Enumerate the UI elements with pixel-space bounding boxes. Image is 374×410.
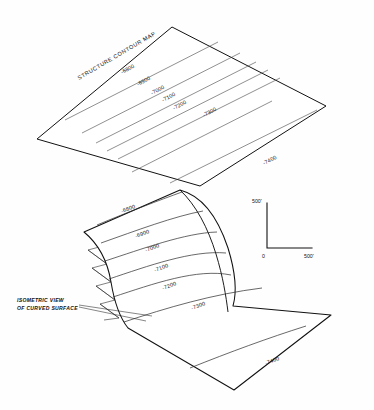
scale-origin-label: 0 (262, 253, 265, 259)
scale-horizontal-label: 500' (304, 253, 314, 259)
structure-contour-map-panel: STRUCTURE CONTOUR MAP -6800 -6900 -7000 … (37, 27, 326, 186)
curved-surface-body (84, 190, 331, 390)
iso-caption-line-2: OF CURVED SURFACE (17, 305, 78, 311)
figure-root: STRUCTURE CONTOUR MAP -6800 -6900 -7000 … (0, 0, 374, 410)
scale-axis-lines (267, 203, 312, 248)
isometric-surface-panel: -6800 -6900 -7000 -7100 -7200 -7300 -740… (17, 190, 331, 390)
scale-vertical-label: 500' (252, 198, 262, 204)
scale-bar: 500' 0 500' (252, 198, 314, 259)
diagram-canvas: STRUCTURE CONTOUR MAP -6800 -6900 -7000 … (0, 0, 374, 410)
map-contour-label-7400: -7400 (262, 154, 278, 166)
iso-caption-line-1: ISOMETRIC VIEW (17, 297, 65, 303)
